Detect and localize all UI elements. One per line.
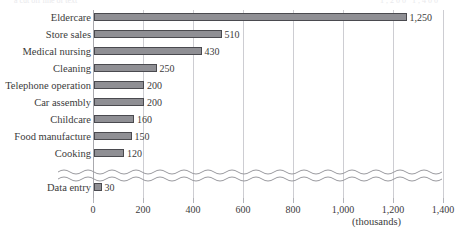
- bar-row: Cooking120: [0, 145, 448, 162]
- bar-row: Food manufacture150: [0, 128, 448, 145]
- bar: [94, 30, 222, 38]
- bar-row: Data entry30: [0, 179, 448, 196]
- axis-unit-label: (thousands): [352, 215, 401, 228]
- bar: [94, 47, 202, 55]
- bar: [94, 13, 407, 21]
- category-label: Car assembly: [0, 96, 91, 109]
- cut-off-top-text: a cut off line of text 1,200 1,400: [0, 0, 448, 7]
- bar-value-label: 510: [225, 28, 240, 41]
- bar-row: Cleaning250: [0, 60, 448, 77]
- axis-tick-label: 1,400: [413, 203, 459, 216]
- top-text-left: a cut off line of text: [14, 0, 77, 4]
- bar: [94, 132, 132, 140]
- category-label: Cleaning: [0, 62, 91, 75]
- bar-value-label: 1,250: [410, 11, 433, 24]
- plot-area: Eldercare1,250Store sales510Medical nurs…: [0, 8, 448, 232]
- bar-row: Telephone operation200: [0, 77, 448, 94]
- bar-row: Store sales510: [0, 26, 448, 43]
- bar-value-label: 160: [137, 113, 152, 126]
- bar: [94, 98, 144, 106]
- bar-value-label: 200: [147, 96, 162, 109]
- bar-value-label: 120: [127, 147, 142, 160]
- category-label: Food manufacture: [0, 130, 91, 143]
- bar-row: Eldercare1,250: [0, 9, 448, 26]
- bar-value-label: 250: [160, 62, 175, 75]
- category-label: Cooking: [0, 147, 91, 160]
- bar: [94, 64, 157, 72]
- bar-value-label: 30: [105, 181, 115, 194]
- category-label: Data entry: [0, 181, 91, 194]
- bar-value-label: 150: [135, 130, 150, 143]
- category-label: Telephone operation: [0, 79, 91, 92]
- bar-rows: Eldercare1,250Store sales510Medical nurs…: [0, 8, 448, 166]
- top-text-right: 1,200 1,400: [380, 0, 440, 4]
- category-label: Medical nursing: [0, 45, 91, 58]
- bar-row: Car assembly200: [0, 94, 448, 111]
- category-label: Store sales: [0, 28, 91, 41]
- bar-value-label: 200: [147, 79, 162, 92]
- bar: [94, 183, 102, 191]
- bar: [94, 81, 144, 89]
- bar-value-label: 430: [205, 45, 220, 58]
- bar-row: Childcare160: [0, 111, 448, 128]
- bar-row: Medical nursing430: [0, 43, 448, 60]
- category-label: Childcare: [0, 113, 91, 126]
- category-label: Eldercare: [0, 11, 91, 24]
- bar: [94, 149, 124, 157]
- bar: [94, 115, 134, 123]
